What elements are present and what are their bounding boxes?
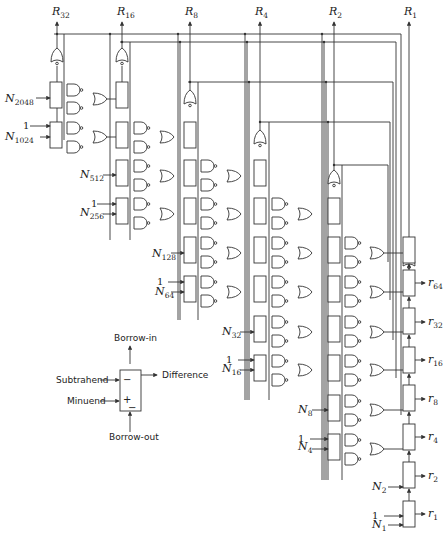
- output-label-r32: r32: [428, 315, 443, 330]
- legend-subtractor-cell: [100, 346, 157, 432]
- input-label-n32: N32: [221, 325, 241, 340]
- input-labels: N2048N1024N512N256N128N64N32N16N8N4N2N11…: [4, 92, 387, 533]
- output-label-r8: r8: [428, 392, 438, 407]
- column-1-cells: [50, 66, 116, 153]
- legend-minus-sign-bottom: −: [128, 402, 136, 413]
- column-2-cells: [116, 66, 174, 229]
- column-4-cells: [254, 160, 312, 386]
- legend-borrow-in-label: Borrow-in: [114, 333, 157, 343]
- constant-one-label: 1: [157, 276, 163, 287]
- input-label-n1024: N1024: [4, 130, 34, 145]
- output-label-r32: R32: [51, 5, 70, 20]
- right-output-labels: r64r32r16r8r4r2r1: [428, 276, 443, 522]
- output-label-r16: r16: [428, 353, 443, 368]
- input-label-n2: N2: [371, 480, 387, 495]
- output-label-r1: r1: [428, 507, 438, 522]
- output-label-r4: R4: [254, 5, 268, 20]
- output-label-r4: r4: [428, 430, 438, 445]
- input-label-n128: N128: [151, 247, 176, 262]
- legend-minuend-label: Minuend: [67, 396, 106, 406]
- constant-one-label: 1: [23, 120, 29, 131]
- constant-one-label: 1: [226, 354, 232, 365]
- legend-difference-label: Difference: [162, 370, 209, 380]
- input-label-n512: N512: [79, 168, 104, 183]
- or-gates-top: [51, 48, 415, 269]
- output-label-r16: R16: [116, 5, 135, 20]
- subtractor-circuit-diagram: R32R16R8R4R2R1 N2048N1024N512N256N128N64…: [0, 0, 447, 542]
- column-5-cells: [328, 198, 384, 465]
- input-label-n8: N8: [297, 403, 313, 418]
- output-label-r64: r64: [428, 276, 443, 291]
- constant-one-label: 1: [372, 510, 378, 521]
- input-label-n2048: N2048: [4, 92, 34, 107]
- input-label-n64: N64: [154, 285, 174, 300]
- legend-subtrahend-label: Subtrahend: [56, 375, 109, 385]
- output-label-r2: R2: [328, 5, 342, 20]
- output-label-r2: r2: [428, 469, 438, 484]
- output-label-r8: R8: [184, 5, 198, 20]
- output-label-r1: R1: [403, 5, 417, 20]
- column-3-cells: [184, 122, 241, 307]
- top-output-labels: R32R16R8R4R2R1: [51, 5, 417, 20]
- column-6-cells: [384, 237, 415, 527]
- legend-minus-sign: −: [123, 374, 131, 385]
- constant-one-label: 1: [298, 433, 304, 444]
- legend-borrow-out-label: Borrow-out: [109, 432, 159, 442]
- constant-one-label: 1: [91, 198, 97, 209]
- right-output-arrows: [415, 283, 425, 514]
